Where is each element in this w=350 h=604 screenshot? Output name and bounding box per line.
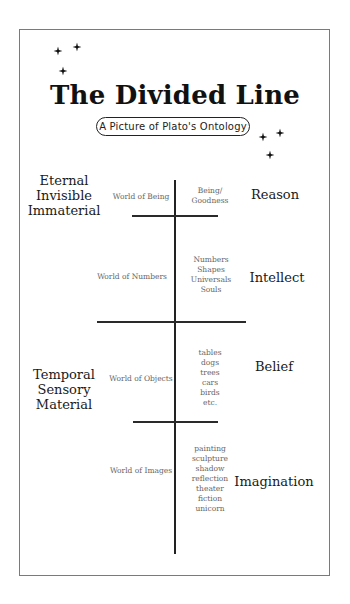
- example-item: fiction: [192, 494, 228, 504]
- realm-line: Immaterial: [28, 203, 101, 218]
- examples-being: Being/ Goodness: [192, 186, 229, 206]
- example-item: theater: [192, 484, 228, 494]
- example-item: Goodness: [192, 196, 229, 206]
- example-item: birds: [199, 388, 222, 398]
- realm-line: Eternal: [28, 173, 101, 188]
- faculty-reason: Reason: [251, 187, 299, 202]
- example-item: Shapes: [191, 265, 231, 275]
- example-item: Universals: [191, 275, 231, 285]
- example-item: Being/: [192, 186, 229, 196]
- example-item: tables: [199, 348, 222, 358]
- star-icon: [276, 129, 285, 138]
- examples-objects: tables dogs trees cars birds etc.: [199, 348, 222, 408]
- example-item: Souls: [191, 285, 231, 295]
- world-label-objects: World of Objects: [109, 374, 172, 383]
- example-item: Numbers: [191, 255, 231, 265]
- faculty-imagination: Imagination: [234, 474, 313, 489]
- page-title: The Divided Line: [0, 80, 350, 110]
- world-label-images: World of Images: [110, 466, 172, 475]
- example-item: sculpture: [192, 454, 228, 464]
- divided-line-vertical: [174, 180, 176, 554]
- example-item: painting: [192, 444, 228, 454]
- divider-being-numbers: [132, 215, 218, 217]
- subtitle-text: A Picture of Plato's Ontology: [99, 121, 247, 132]
- realm-line: Invisible: [28, 188, 101, 203]
- example-item: dogs: [199, 358, 222, 368]
- example-item: etc.: [199, 398, 222, 408]
- example-item: reflection: [192, 474, 228, 484]
- subtitle-badge: A Picture of Plato's Ontology: [96, 117, 250, 136]
- star-icon: [59, 67, 68, 76]
- realm-label-lower: Temporal Sensory Material: [33, 367, 95, 412]
- faculty-intellect: Intellect: [250, 270, 305, 285]
- star-icon: [259, 133, 268, 142]
- world-label-being: World of Being: [113, 192, 170, 201]
- example-item: cars: [199, 378, 222, 388]
- examples-numbers: Numbers Shapes Universals Souls: [191, 255, 231, 295]
- example-item: trees: [199, 368, 222, 378]
- realm-label-upper: Eternal Invisible Immaterial: [28, 173, 101, 218]
- divider-intelligible-visible: [97, 321, 246, 323]
- star-icon: [266, 151, 275, 160]
- example-item: unicorn: [192, 504, 228, 514]
- world-label-numbers: World of Numbers: [97, 272, 167, 281]
- realm-line: Temporal: [33, 367, 95, 382]
- divider-objects-images: [133, 421, 218, 423]
- realm-line: Sensory: [33, 382, 95, 397]
- realm-line: Material: [33, 397, 95, 412]
- faculty-belief: Belief: [255, 359, 293, 374]
- example-item: shadow: [192, 464, 228, 474]
- star-icon: [73, 43, 82, 52]
- star-icon: [54, 47, 63, 56]
- examples-images: painting sculpture shadow reflection the…: [192, 444, 228, 514]
